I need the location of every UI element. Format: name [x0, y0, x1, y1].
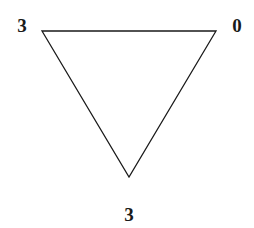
- vertex-label-top-left: 3: [17, 15, 27, 36]
- triangle-shape: [42, 31, 216, 177]
- vertex-label-bottom: 3: [124, 204, 134, 225]
- vertex-label-top-right: 0: [232, 15, 242, 36]
- triangle-diagram: 3 0 3: [0, 0, 254, 228]
